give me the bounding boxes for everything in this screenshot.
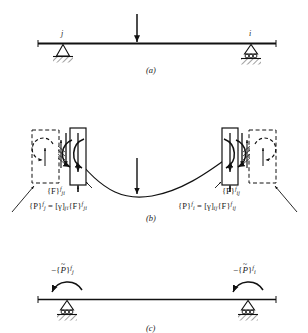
eq-left-lhs-sub: j	[44, 205, 46, 211]
leader-line-force-right-b	[215, 182, 221, 188]
node-label-i-a: i	[249, 30, 251, 38]
joint-load-right-sub: i	[254, 268, 256, 275]
joint-load-left-symbol-group: ~P	[60, 266, 66, 275]
joint-load-right-tilde: ~	[243, 261, 247, 269]
panel-a	[38, 14, 276, 65]
force-label-right-b-sub: ij	[237, 190, 240, 196]
force-label-left-b-bracket: {F}	[47, 186, 60, 196]
joint-load-left-sub: j	[72, 268, 74, 275]
eq-left-equals: =	[48, 201, 53, 211]
force-label-left-b: {F}fji	[47, 186, 65, 196]
eq-left-rhs-sub: ji	[83, 205, 87, 211]
equation-left-b: {P}fj = [γ]ji{F}fji	[29, 201, 87, 211]
moment-arc-dashed-left-b	[32, 138, 53, 160]
joint-load-right-symbol-group: ~P	[242, 266, 248, 275]
support-right-c-roller	[238, 301, 258, 321]
caption-b: (b)	[146, 214, 156, 223]
joint-left-b	[32, 128, 86, 192]
eq-right-rhs-sub: ij	[232, 205, 236, 211]
figure-root: j i (a) {F}fji {F}fij {P}fj = [γ]ji{F}fj…	[0, 0, 308, 333]
moment-arrow-left-c	[52, 282, 82, 292]
eq-left-lhs: {P}	[29, 201, 42, 211]
caption-c: (c)	[146, 324, 155, 333]
joint-load-label-left-c: −{~P}fj	[51, 265, 74, 276]
panel-b	[12, 128, 297, 212]
equation-right-b: {P}fi = [γ]ij{F}fij	[178, 201, 236, 211]
figure-canvas	[0, 0, 308, 333]
moment-arrow-right-c	[233, 282, 263, 292]
eq-right-rhs: {F}	[217, 201, 230, 211]
joint-load-left-tilde: ~	[61, 261, 65, 269]
eq-left-rhs: {F}	[68, 201, 81, 211]
eq-right-lhs-sub: i	[193, 205, 195, 211]
caption-a: (a)	[146, 66, 156, 75]
leader-line-right-b	[275, 186, 297, 212]
deflected-beam-curve-b	[72, 150, 238, 197]
support-left-a-pinned	[53, 45, 73, 63]
force-label-right-b: {F}fij	[222, 186, 240, 196]
moment-arc-dashed-right-b	[255, 138, 276, 160]
node-label-j-a: j	[61, 30, 63, 38]
joint-right-b	[222, 128, 276, 192]
panel-c	[38, 282, 276, 321]
eq-right-equals: =	[197, 201, 202, 211]
force-label-right-b-bracket: {F}	[222, 186, 235, 196]
support-right-a-roller	[241, 45, 261, 65]
support-left-c-roller	[57, 301, 77, 321]
eq-right-lhs: {P}	[178, 201, 191, 211]
joint-load-label-right-c: −{~P}fi	[233, 265, 256, 276]
force-label-left-b-sub: ji	[62, 190, 65, 196]
leader-line-force-left-b	[86, 182, 92, 188]
